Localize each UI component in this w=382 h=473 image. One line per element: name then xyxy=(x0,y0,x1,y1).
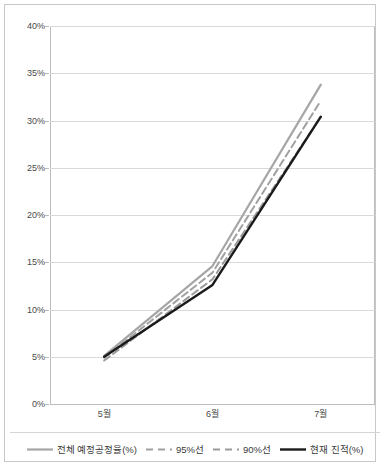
y-axis-tick-mark xyxy=(45,262,49,263)
legend-item-label: 전체 예정공정율(%) xyxy=(57,444,137,455)
legend-item[interactable]: 95%선 xyxy=(146,444,204,455)
chart-legend: 전체 예정공정율(%)95%선90%선현재 진적(%) xyxy=(10,432,380,465)
legend-item-label: 95%선 xyxy=(176,444,204,455)
legend-line-swatch xyxy=(213,445,239,454)
y-axis-tick-mark xyxy=(45,168,49,169)
y-axis-tick-label: 35% xyxy=(9,68,45,78)
gridline xyxy=(50,404,375,405)
y-axis-tick-mark xyxy=(45,73,49,74)
chart-frame: 40%35%30%25%20%15%10%5%0% 5월6월7월 전체 예정공정… xyxy=(4,4,376,462)
y-axis-tick-label: 15% xyxy=(9,257,45,267)
x-axis-tick-label: 6월 xyxy=(183,408,243,420)
x-axis-tick-label: 7월 xyxy=(291,408,351,420)
y-axis-tick-mark xyxy=(45,310,49,311)
y-axis-tick-mark xyxy=(45,26,49,27)
y-axis-tick-mark xyxy=(45,121,49,122)
legend-item[interactable]: 90%선 xyxy=(213,444,271,455)
y-axis-tick-label: 40% xyxy=(9,21,45,31)
legend-line-swatch xyxy=(27,445,53,454)
x-axis: 5월6월7월 xyxy=(50,408,375,426)
y-axis: 40%35%30%25%20%15%10%5%0% xyxy=(5,26,45,404)
y-axis-tick-label: 0% xyxy=(9,399,45,409)
y-axis-tick-label: 20% xyxy=(9,210,45,220)
x-axis-tick-label: 5월 xyxy=(74,408,134,420)
y-axis-tick-label: 5% xyxy=(9,352,45,362)
y-axis-tick-label: 10% xyxy=(9,305,45,315)
series-lines xyxy=(50,26,375,404)
legend-line-swatch xyxy=(146,445,172,454)
y-axis-tick-mark xyxy=(45,215,49,216)
y-axis-tick-mark xyxy=(45,357,49,358)
legend-item[interactable]: 현재 진적(%) xyxy=(280,444,363,455)
legend-item-label: 90%선 xyxy=(243,444,271,455)
y-axis-tick-label: 25% xyxy=(9,163,45,173)
plot-area xyxy=(50,26,375,404)
y-axis-tick-mark xyxy=(45,404,49,405)
legend-item[interactable]: 전체 예정공정율(%) xyxy=(27,444,137,455)
legend-item-label: 현재 진적(%) xyxy=(310,444,363,455)
y-axis-tick-label: 30% xyxy=(9,116,45,126)
chart-container: 40%35%30%25%20%15%10%5%0% 5월6월7월 전체 예정공정… xyxy=(0,0,382,473)
legend-line-swatch xyxy=(280,445,306,454)
series-line xyxy=(104,85,321,356)
